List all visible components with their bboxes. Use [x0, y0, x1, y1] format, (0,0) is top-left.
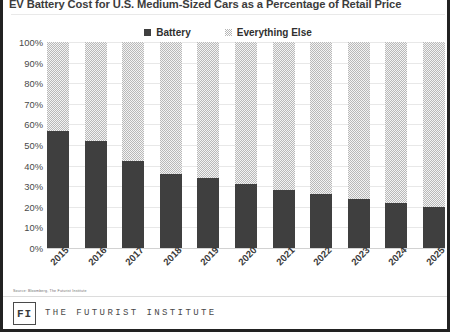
bar-segment-battery[interactable] — [310, 194, 332, 248]
bar-segment-everything-else[interactable] — [310, 42, 332, 194]
y-tick-label: 0% — [29, 243, 43, 254]
y-tick-label: 60% — [24, 119, 43, 130]
x-tick-slot: 2022 — [310, 250, 332, 284]
y-tick-label: 30% — [24, 181, 43, 192]
bar-column[interactable] — [85, 42, 107, 248]
x-tick-slot: 2017 — [122, 250, 144, 284]
y-tick-label: 10% — [24, 222, 43, 233]
x-tick-slot: 2019 — [197, 250, 219, 284]
x-tick-slot: 2016 — [85, 250, 107, 284]
y-tick-label: 20% — [24, 201, 43, 212]
chart-title: EV Battery Cost for U.S. Medium-Sized Ca… — [9, 0, 450, 12]
bar-column[interactable] — [47, 42, 69, 248]
bar-column[interactable] — [122, 42, 144, 248]
title-divider — [11, 14, 445, 15]
x-tick-slot: 2020 — [235, 250, 257, 284]
x-tick-slot: 2021 — [273, 250, 295, 284]
x-tick-slot: 2024 — [385, 250, 407, 284]
chart-bars — [47, 42, 445, 248]
bar-segment-battery[interactable] — [160, 174, 182, 248]
bar-segment-battery[interactable] — [47, 131, 69, 248]
y-tick-label: 40% — [24, 160, 43, 171]
bar-column[interactable] — [160, 42, 182, 248]
bar-segment-everything-else[interactable] — [423, 42, 445, 207]
chart-axes: 0%10%20%30%40%50%60%70%80%90%100% 201520… — [11, 42, 445, 284]
y-axis-tick-labels: 0%10%20%30%40%50%60%70%80%90%100% — [11, 42, 45, 248]
bar-segment-everything-else[interactable] — [47, 42, 69, 131]
bar-column[interactable] — [423, 42, 445, 248]
bar-segment-battery[interactable] — [235, 184, 257, 248]
chart-legend: BatteryEverything Else — [11, 24, 445, 40]
futurist-institute-logo: FI — [13, 302, 36, 325]
bar-column[interactable] — [197, 42, 219, 248]
bar-segment-battery[interactable] — [348, 199, 370, 248]
bar-column[interactable] — [348, 42, 370, 248]
bar-segment-battery[interactable] — [423, 207, 445, 248]
bar-segment-everything-else[interactable] — [122, 42, 144, 161]
x-tick-slot: 2025 — [423, 250, 445, 284]
bar-segment-everything-else[interactable] — [197, 42, 219, 178]
y-tick-label: 90% — [24, 57, 43, 68]
bar-segment-everything-else[interactable] — [85, 42, 107, 141]
legend-label: Battery — [156, 27, 190, 38]
bar-segment-everything-else[interactable] — [348, 42, 370, 199]
slide-canvas: EV Battery Cost for U.S. Medium-Sized Ca… — [0, 0, 450, 332]
footer-divider — [3, 296, 447, 297]
bar-segment-everything-else[interactable] — [385, 42, 407, 203]
legend-swatch-icon — [144, 29, 151, 36]
organization-name: THE FUTURIST INSTITUTE — [45, 308, 217, 318]
x-tick-slot: 2023 — [348, 250, 370, 284]
chart-plot-area: BatteryEverything Else 0%10%20%30%40%50%… — [11, 16, 445, 284]
bar-column[interactable] — [273, 42, 295, 248]
legend-swatch-icon — [225, 29, 232, 36]
bar-segment-battery[interactable] — [197, 178, 219, 248]
source-note: Source: Bloomberg, The Futurist Institut… — [13, 289, 87, 293]
x-tick-slot: 2015 — [47, 250, 69, 284]
legend-label: Everything Else — [237, 27, 312, 38]
bar-column[interactable] — [385, 42, 407, 248]
x-axis-tick-labels: 2015201620172018201920202021202220232024… — [47, 250, 445, 284]
bar-segment-battery[interactable] — [85, 141, 107, 248]
bar-segment-battery[interactable] — [385, 203, 407, 248]
x-tick-slot: 2018 — [160, 250, 182, 284]
legend-item-everything-else[interactable]: Everything Else — [225, 27, 312, 38]
bar-segment-everything-else[interactable] — [235, 42, 257, 184]
bar-column[interactable] — [235, 42, 257, 248]
bar-segment-battery[interactable] — [122, 161, 144, 248]
y-tick-label: 80% — [24, 78, 43, 89]
bar-segment-everything-else[interactable] — [273, 42, 295, 190]
y-tick-label: 100% — [19, 37, 43, 48]
legend-item-battery[interactable]: Battery — [144, 27, 190, 38]
y-tick-label: 70% — [24, 98, 43, 109]
y-tick-label: 50% — [24, 140, 43, 151]
bar-segment-battery[interactable] — [273, 190, 295, 248]
bar-segment-everything-else[interactable] — [160, 42, 182, 174]
bar-column[interactable] — [310, 42, 332, 248]
